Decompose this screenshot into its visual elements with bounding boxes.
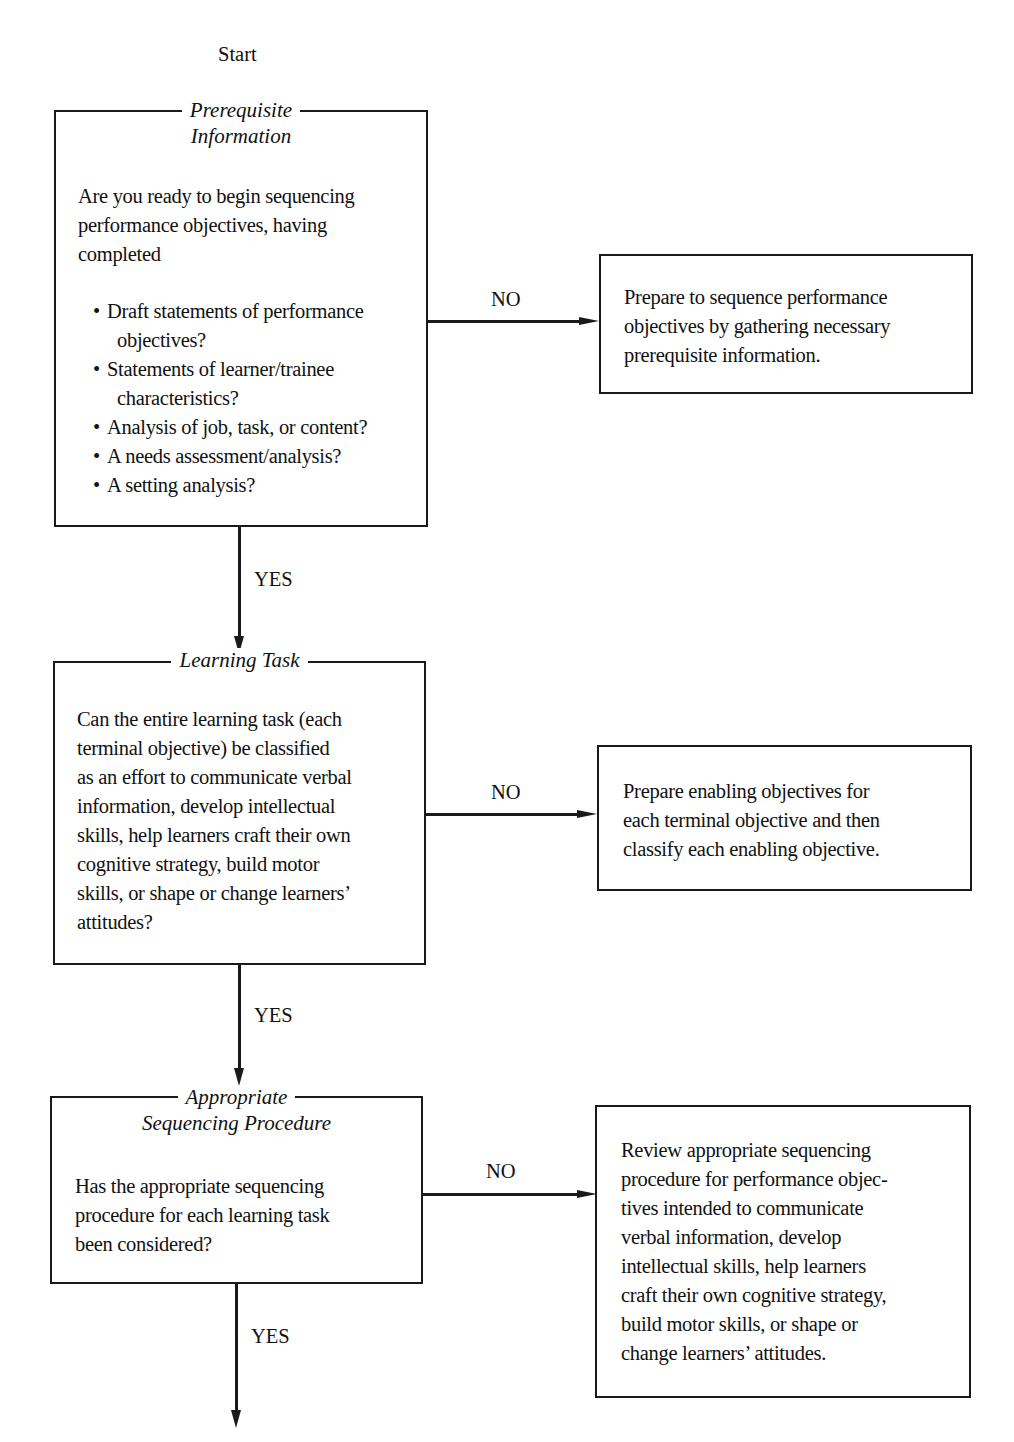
yes-label-1: YES <box>254 567 293 591</box>
review-sequencing-text: Review appropriate sequencing procedure … <box>621 1136 966 1368</box>
arrow-right-icon <box>577 1190 597 1198</box>
no-connector-3 <box>423 1193 578 1196</box>
checklist-item: A setting analysis? <box>78 471 423 500</box>
arrow-right-icon <box>579 317 599 325</box>
yes-connector-2 <box>238 965 241 1073</box>
arrow-right-icon <box>577 810 597 818</box>
yes-connector-1 <box>238 527 241 641</box>
learning-task-title: Learning Task <box>53 647 426 673</box>
no-label-3: NO <box>486 1159 516 1183</box>
checklist-item: Draft statements of performanceobjective… <box>78 297 423 355</box>
no-connector-2 <box>426 813 578 816</box>
checklist-item: Analysis of job, task, or content? <box>78 413 423 442</box>
yes-label-3: YES <box>251 1324 290 1348</box>
sequencing-procedure-title: Appropriate Sequencing Procedure <box>50 1084 423 1136</box>
sequencing-procedure-question: Has the appropriate sequencing procedure… <box>75 1172 415 1259</box>
prepare-prerequisite-text: Prepare to sequence performance objectiv… <box>624 283 964 370</box>
checklist-item: Statements of learner/traineecharacteris… <box>78 355 423 413</box>
prerequisite-checklist: Draft statements of performanceobjective… <box>78 297 423 500</box>
no-connector-1 <box>428 320 580 323</box>
start-label: Start <box>218 42 257 66</box>
yes-connector-3 <box>235 1284 238 1414</box>
no-label-1: NO <box>491 287 521 311</box>
arrow-down-icon <box>231 1410 241 1428</box>
prepare-enabling-text: Prepare enabling objectives for each ter… <box>623 777 963 864</box>
checklist-item: A needs assessment/analysis? <box>78 442 423 471</box>
prerequisite-question: Are you ready to begin sequencing perfor… <box>78 182 418 269</box>
learning-task-question: Can the entire learning task (each termi… <box>77 705 422 937</box>
yes-label-2: YES <box>254 1003 293 1027</box>
prerequisite-information-title: Prerequisite Information <box>54 97 428 149</box>
no-label-2: NO <box>491 780 521 804</box>
